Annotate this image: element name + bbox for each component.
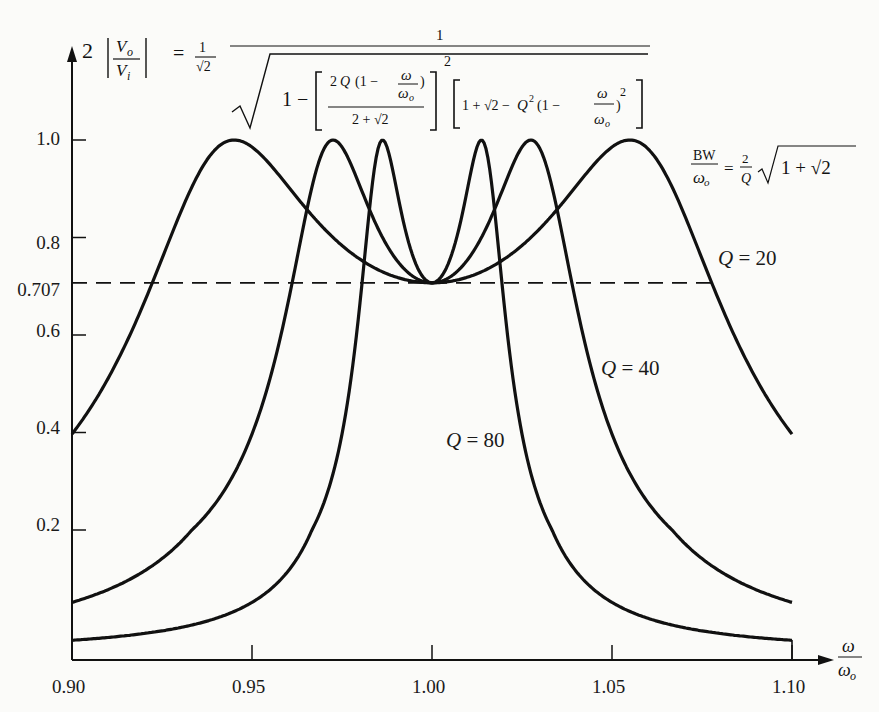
chart-figure: 2VoVi=1√211 −2Q(1 −ωωo)2 + √221 + √2 −Q2…: [0, 0, 879, 712]
eq-term: ω: [398, 85, 409, 101]
y-tick-0.2: 0.2: [0, 514, 60, 536]
eq-term: ω: [401, 67, 412, 83]
bw-eq: =: [724, 159, 734, 178]
eq-term: o: [409, 92, 414, 103]
y-axis-arrow-icon: [67, 46, 77, 62]
equals-sign: =: [173, 42, 184, 64]
bw-2: 2: [742, 151, 749, 166]
label-q80: Q = 80: [446, 428, 505, 453]
x-tick-1.10: 1.10: [772, 676, 805, 698]
eq-term: Q: [517, 97, 528, 113]
x-tick-0.90: 0.90: [52, 676, 85, 698]
y-tick-0.707: 0.707: [0, 279, 60, 301]
y-tick-0.8: 0.8: [0, 232, 60, 254]
x-tick-1.00: 1.00: [412, 676, 445, 698]
bracket: [636, 80, 642, 128]
eq-term: 2: [529, 93, 534, 104]
bracket: [454, 80, 460, 128]
label-q20: Q = 20: [718, 246, 777, 271]
x-axis-label: ω: [842, 636, 855, 656]
x-axis-label: ω: [838, 660, 851, 680]
y-tick-1.0: 1.0: [0, 128, 60, 150]
eq-term: o: [605, 118, 610, 129]
eq-term: ): [420, 74, 425, 90]
curve-q20: [72, 140, 792, 434]
y-tick-0.6: 0.6: [0, 320, 60, 342]
bw-radicand: 1 + √2: [781, 157, 831, 178]
x-axis-arrow-icon: [818, 655, 834, 665]
bracket: [316, 72, 322, 130]
eq-term: 1 + √2 −: [462, 98, 510, 113]
bw-den-sub: o: [704, 176, 710, 188]
y-axis-label-prefix: 2: [82, 38, 93, 63]
vo-sub: o: [127, 45, 133, 59]
eq-term: 2: [330, 74, 337, 89]
eq-term: ω: [594, 111, 605, 127]
eq-term: ): [616, 98, 621, 114]
eq-den: √2: [196, 59, 211, 74]
bracket: [430, 72, 436, 130]
eq-term: 2 + √2: [352, 112, 389, 127]
eq-term: Q: [340, 74, 350, 89]
eq-term: (1 −: [355, 74, 378, 90]
x-tick-0.95: 0.95: [232, 676, 265, 698]
curve-q40: [72, 140, 792, 602]
vi-sub: i: [127, 69, 130, 83]
bw-num: BW: [693, 148, 716, 163]
eq-term: (1 −: [537, 98, 560, 114]
main-num: 1: [436, 27, 444, 43]
eq-num: 1: [199, 40, 206, 55]
label-q40: Q = 40: [601, 356, 660, 381]
y-tick-0.4: 0.4: [0, 417, 60, 439]
eq-term: 2: [620, 85, 626, 99]
x-axis-label-sub: o: [850, 669, 856, 683]
bw-q: Q: [741, 171, 751, 186]
eq-term: 2: [444, 54, 451, 69]
eq-term: 1 −: [282, 88, 308, 110]
x-tick-1.05: 1.05: [592, 676, 625, 698]
eq-term: ω: [597, 85, 608, 101]
plot-area: 2VoVi=1√211 −2Q(1 −ωωo)2 + √221 + √2 −Q2…: [0, 0, 879, 712]
